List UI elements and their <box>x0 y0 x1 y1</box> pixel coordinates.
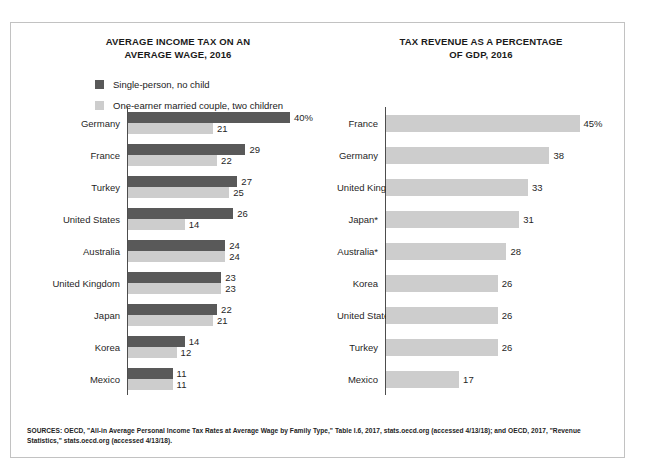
bar-value-label: 33 <box>532 182 543 193</box>
bar-group: 2323 <box>128 267 338 299</box>
chart-row: Korea1412 <box>19 331 337 363</box>
bar-item: 23 <box>128 272 338 283</box>
plot-area-income-tax: Germany40%21France2922Turkey2725United S… <box>19 23 337 423</box>
bar <box>386 115 580 132</box>
bar-value-label: 11 <box>177 379 187 390</box>
chart-row: Japan2221 <box>19 299 337 331</box>
bar-value-label: 40% <box>294 112 313 123</box>
bar-item: 12 <box>128 347 338 358</box>
sources-note: SOURCES: OECD, "All-in Average Personal … <box>27 426 610 445</box>
bar-value-label: 12 <box>181 347 192 358</box>
bar-group: 2221 <box>128 299 338 331</box>
bar-item: 33 <box>386 179 626 196</box>
plot-area-tax-revenue: France45%Germany38United Kingdom33Japan*… <box>337 23 625 423</box>
bar-item: 38 <box>386 147 626 164</box>
bar-group: 2922 <box>128 139 338 171</box>
category-label: Turkey <box>19 182 120 193</box>
chart-row: Turkey26 <box>337 331 625 363</box>
bar-value-label: 24 <box>229 251 240 262</box>
chart-row: France45% <box>337 107 625 139</box>
bar <box>128 155 217 166</box>
chart-panels: AVERAGE INCOME TAX ON AN AVERAGE WAGE, 2… <box>11 23 624 423</box>
bar-item: 22 <box>128 155 338 166</box>
bar-value-label: 26 <box>502 342 513 353</box>
bar-item: 21 <box>128 123 338 134</box>
bar-group: 40%21 <box>128 107 338 139</box>
bar-group: 26 <box>386 267 626 299</box>
chart-row: United States2614 <box>19 203 337 235</box>
figure-frame: AVERAGE INCOME TAX ON AN AVERAGE WAGE, 2… <box>10 22 625 458</box>
bar-item: 21 <box>128 315 338 326</box>
bar <box>386 147 549 164</box>
bar <box>128 187 229 198</box>
bar <box>128 368 173 379</box>
bar-value-label: 25 <box>233 187 244 198</box>
chart-row: Australia2424 <box>19 235 337 267</box>
category-label: Mexico <box>19 374 120 385</box>
bar-item: 23 <box>128 283 338 294</box>
bar-item: 26 <box>128 208 338 219</box>
bar <box>128 347 177 358</box>
bar-item: 11 <box>128 379 338 390</box>
chart-row: United Kingdom33 <box>337 171 625 203</box>
bar-item: 25 <box>128 187 338 198</box>
bar-value-label: 21 <box>217 123 228 134</box>
bar <box>128 283 221 294</box>
bar-group: 33 <box>386 171 626 203</box>
bar-item: 17 <box>386 371 626 388</box>
bar <box>386 275 498 292</box>
category-label: Turkey <box>337 342 378 353</box>
chart-row: France2922 <box>19 139 337 171</box>
bar-item: 26 <box>386 275 626 292</box>
bar-value-label: 29 <box>249 144 260 155</box>
bar <box>128 251 225 262</box>
chart-row: Mexico1111 <box>19 363 337 395</box>
category-label: Japan* <box>337 214 378 225</box>
bar-value-label: 23 <box>225 283 236 294</box>
category-label: Germany <box>337 150 378 161</box>
bar-group: 1111 <box>128 363 338 395</box>
bar-group: 26 <box>386 299 626 331</box>
bar-group: 28 <box>386 235 626 267</box>
bar <box>128 144 245 155</box>
category-label: United States <box>337 310 378 321</box>
bar-group: 26 <box>386 331 626 363</box>
chart-row: United States26 <box>337 299 625 331</box>
bar-value-label: 24 <box>229 240 240 251</box>
bar-item: 14 <box>128 336 338 347</box>
chart-row: Australia*28 <box>337 235 625 267</box>
chart-row: Mexico17 <box>337 363 625 395</box>
bar-group: 2614 <box>128 203 338 235</box>
category-label: Korea <box>19 342 120 353</box>
bar-item: 22 <box>128 304 338 315</box>
chart-row: Germany38 <box>337 139 625 171</box>
chart-row: Turkey2725 <box>19 171 337 203</box>
bar-item: 29 <box>128 144 338 155</box>
bar-item: 11 <box>128 368 338 379</box>
bar-item: 31 <box>386 211 626 228</box>
bar-group: 31 <box>386 203 626 235</box>
bar-value-label: 45% <box>584 118 603 129</box>
bar <box>386 179 528 196</box>
bar-item: 24 <box>128 251 338 262</box>
bar-group: 45% <box>386 107 626 139</box>
bar <box>386 211 519 228</box>
bar-value-label: 26 <box>502 278 513 289</box>
bar-value-label: 21 <box>217 315 228 326</box>
bar-value-label: 31 <box>523 214 534 225</box>
bar <box>128 123 213 134</box>
bar-item: 26 <box>386 339 626 356</box>
bar-value-label: 38 <box>553 150 564 161</box>
bar-item: 27 <box>128 176 338 187</box>
bar-item: 24 <box>128 240 338 251</box>
category-label: United Kingdom <box>337 182 378 193</box>
category-label: Japan <box>19 310 120 321</box>
bar-value-label: 27 <box>241 176 252 187</box>
bar-group: 38 <box>386 139 626 171</box>
bar-item: 45% <box>386 115 626 132</box>
bar-item: 28 <box>386 243 626 260</box>
bar <box>386 307 498 324</box>
bar <box>128 240 225 251</box>
bar-item: 26 <box>386 307 626 324</box>
bar-value-label: 23 <box>225 272 236 283</box>
